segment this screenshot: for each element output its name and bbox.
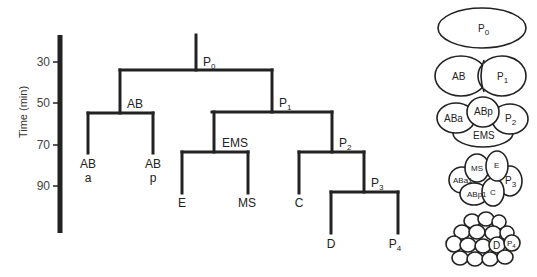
e-label: E — [178, 196, 186, 210]
embryo-d-label: D — [493, 240, 500, 251]
tick-label-30: 30 — [37, 55, 51, 69]
lineage-tree: P0 AB AB a AB p P1 EMS E MS P2 C P3 — [80, 35, 402, 253]
ab-label: AB — [127, 97, 143, 111]
embryo-c-label: C — [490, 188, 496, 197]
embryo-abp1-label: ABp1 — [467, 190, 487, 199]
c-label: C — [295, 196, 304, 210]
p4-label: P4 — [389, 237, 402, 253]
d-label: D — [327, 237, 336, 251]
p1-label: P1 — [279, 96, 292, 112]
time-axis: 30 50 70 90 Time (min) — [17, 35, 60, 233]
embryo-8-cell: ABa1 ABp1 MS E C P3 — [449, 151, 522, 206]
aba-label-line2: a — [85, 171, 92, 185]
embryo-abp-label: ABp — [474, 106, 493, 117]
embryo-28-cell: D P4 — [446, 212, 520, 266]
ems-label: EMS — [222, 136, 248, 150]
embryo-aba1-label: ABa1 — [453, 176, 473, 185]
p3-label: P3 — [371, 176, 384, 192]
embryo-e-label: E — [494, 161, 499, 170]
p2-label: P2 — [339, 136, 352, 152]
tick-label-50: 50 — [37, 96, 51, 110]
embryo-ems-label: EMS — [473, 130, 495, 141]
aba-label-line1: AB — [80, 157, 96, 171]
embryo-ms-label: MS — [471, 164, 483, 173]
tick-label-90: 90 — [37, 179, 51, 193]
cell-lineage-figure: 30 50 70 90 Time (min) P0 AB AB a AB p P… — [0, 0, 537, 277]
embryo-1-cell: P0 — [438, 8, 526, 48]
tick-label-70: 70 — [37, 138, 51, 152]
axis-title: Time (min) — [17, 86, 29, 138]
abp-label-line1: AB — [145, 157, 161, 171]
p0-label: P0 — [203, 55, 216, 71]
embryo-aba-label: ABa — [444, 113, 463, 124]
embryo-ab-label: AB — [452, 71, 466, 82]
embryo-2-cell: AB P1 — [435, 56, 526, 96]
ms-label: MS — [238, 196, 256, 210]
abp-label-line2: p — [150, 171, 157, 185]
embryo-4-cell: ABa ABp P2 EMS — [437, 97, 528, 147]
